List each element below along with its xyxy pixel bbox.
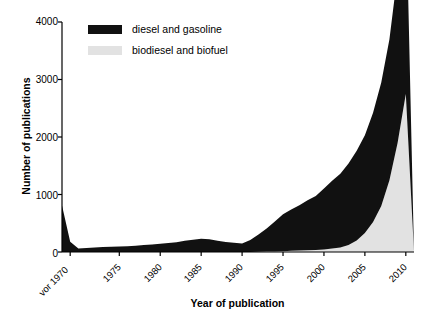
legend-label-biodiesel: biodiesel and biofuel bbox=[132, 45, 228, 56]
publications-area-chart: Number of publications Year of publicati… bbox=[0, 0, 422, 319]
y-tick-4000: 4000 bbox=[24, 17, 58, 27]
legend-item-diesel-and-gasoline: diesel and gasoline bbox=[88, 24, 228, 35]
chart-legend: diesel and gasoline biodiesel and biofue… bbox=[88, 24, 228, 66]
x-axis-title: Year of publication bbox=[60, 297, 415, 309]
y-tick-0: 0 bbox=[24, 249, 58, 259]
y-tick-1000: 1000 bbox=[24, 191, 58, 201]
y-tick-2000: 2000 bbox=[24, 133, 58, 143]
legend-label-diesel: diesel and gasoline bbox=[132, 24, 222, 35]
legend-swatch-icon-diesel bbox=[88, 25, 122, 34]
x-axis-ticks bbox=[70, 252, 406, 256]
legend-swatch-icon-biodiesel bbox=[88, 46, 122, 55]
legend-item-biodiesel-and-biofuel: biodiesel and biofuel bbox=[88, 45, 228, 56]
y-axis-tick-labels: 4000 3000 2000 1000 0 bbox=[18, 0, 58, 260]
y-tick-3000: 3000 bbox=[24, 75, 58, 85]
